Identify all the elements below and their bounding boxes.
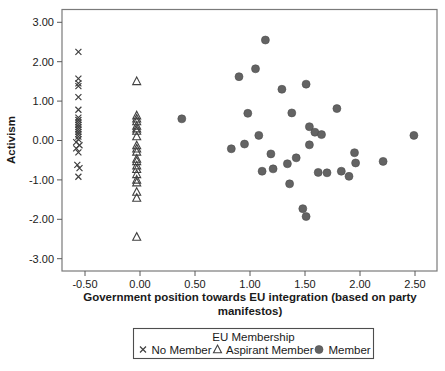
point-member bbox=[283, 160, 291, 168]
y-axis-title: Activism bbox=[5, 116, 17, 164]
scatter-plot-figure: -0.500.000.501.001.502.002.50 3.002.001.… bbox=[0, 0, 445, 371]
point-member bbox=[261, 36, 269, 44]
legend: EU Membership No MemberAspirant MemberMe… bbox=[134, 329, 374, 359]
y-tick-label: 1.00 bbox=[33, 95, 54, 107]
point-no-member bbox=[75, 107, 81, 113]
plot-frame bbox=[62, 10, 437, 272]
legend-label-no-member: No Member bbox=[152, 344, 212, 356]
point-no-member bbox=[75, 174, 81, 180]
scatter-chart: -0.500.000.501.001.502.002.50 3.002.001.… bbox=[0, 0, 445, 371]
point-member bbox=[299, 205, 307, 213]
point-aspirant-member bbox=[133, 233, 141, 241]
point-aspirant-member bbox=[133, 178, 141, 186]
point-member bbox=[178, 115, 186, 123]
point-member bbox=[235, 73, 243, 81]
x-axis-title-line2: manifestos) bbox=[218, 305, 283, 317]
point-member bbox=[258, 167, 266, 175]
point-member bbox=[267, 150, 275, 158]
x-axis-ticks: -0.500.000.501.001.502.002.50 bbox=[72, 271, 425, 290]
legend-title: EU Membership bbox=[212, 331, 294, 343]
point-aspirant-member bbox=[133, 77, 141, 85]
point-member bbox=[314, 168, 322, 176]
point-member bbox=[352, 159, 360, 167]
data-points bbox=[73, 36, 418, 240]
legend-label-aspirant-member: Aspirant Member bbox=[226, 344, 314, 356]
x-tick-label: 0.50 bbox=[184, 278, 205, 290]
point-member bbox=[305, 141, 313, 149]
point-member bbox=[269, 165, 277, 173]
y-tick-label: -2.00 bbox=[29, 213, 54, 225]
point-member bbox=[241, 140, 249, 148]
x-tick-label: 0.00 bbox=[129, 278, 150, 290]
x-tick-label: -0.50 bbox=[72, 278, 97, 290]
point-member bbox=[244, 109, 252, 117]
point-member bbox=[227, 145, 235, 153]
point-member bbox=[292, 154, 300, 162]
legend-symbol-open-triangle bbox=[214, 345, 222, 353]
y-tick-label: -3.00 bbox=[29, 253, 54, 265]
legend-symbol-cross bbox=[140, 347, 146, 353]
y-tick-label: 0.00 bbox=[33, 134, 54, 146]
point-aspirant-member bbox=[133, 124, 141, 132]
point-member bbox=[351, 149, 359, 157]
point-aspirant-member bbox=[133, 132, 141, 140]
point-member bbox=[252, 65, 260, 73]
point-member bbox=[278, 85, 286, 93]
point-no-member bbox=[75, 49, 81, 55]
x-tick-label: 2.00 bbox=[349, 278, 370, 290]
point-member bbox=[302, 213, 310, 221]
point-member bbox=[286, 180, 294, 188]
point-member bbox=[318, 131, 326, 139]
legend-label-member: Member bbox=[329, 344, 371, 356]
point-no-member bbox=[75, 94, 81, 100]
point-member bbox=[255, 131, 263, 139]
point-member bbox=[323, 169, 331, 177]
point-member bbox=[333, 105, 341, 113]
point-member bbox=[302, 80, 310, 88]
point-no-member bbox=[77, 165, 83, 171]
x-tick-label: 1.00 bbox=[239, 278, 260, 290]
y-axis-ticks: 3.002.001.000.00-1.00-2.00-3.00 bbox=[29, 16, 62, 264]
point-member bbox=[345, 172, 353, 180]
y-tick-label: 2.00 bbox=[33, 56, 54, 68]
y-tick-label: 3.00 bbox=[33, 16, 54, 28]
legend-items: No MemberAspirant MemberMember bbox=[140, 344, 371, 356]
legend-symbol-filled-circle bbox=[315, 346, 323, 354]
x-tick-label: 2.50 bbox=[404, 278, 425, 290]
point-member bbox=[288, 109, 296, 117]
point-member bbox=[337, 167, 345, 175]
point-member bbox=[410, 131, 418, 139]
x-axis-title-line1: Government position towards EU integrati… bbox=[83, 291, 417, 303]
y-tick-label: -1.00 bbox=[29, 174, 54, 186]
x-tick-label: 1.50 bbox=[294, 278, 315, 290]
point-member bbox=[379, 157, 387, 165]
point-no-member bbox=[74, 162, 80, 168]
